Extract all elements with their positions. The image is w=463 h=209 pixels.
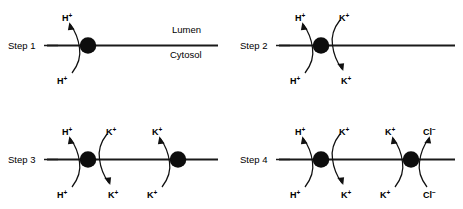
step3-pump-potassium-top-label: K+ [106, 126, 117, 137]
transport-diagram-figure: Step 1 Lumen Cytosol H+ H+ Step 2 [0, 0, 463, 209]
step3-proton-pump [80, 151, 97, 168]
step2-hydrogen-top-label: H+ [295, 12, 306, 23]
step1-hydrogen-flux-arrow [68, 22, 80, 73]
step4-channel-potassium-top-label: K+ [385, 126, 396, 137]
step2-potassium-bottom-label: K+ [341, 75, 352, 86]
lumen-label: Lumen [172, 24, 201, 35]
step2-proton-pump [313, 37, 330, 54]
step4-channel-potassium-bottom-label: K+ [380, 189, 391, 200]
step1-hydrogen-bottom-label: H+ [57, 75, 68, 86]
panel-step3: Step 3 H+ H+ K+ K+ [8, 126, 218, 200]
step4-channel-potassium-flux-arrow [391, 136, 403, 187]
step3-channel-potassium-bottom-label: K+ [147, 189, 158, 200]
step4-pump-potassium-bottom-label: K+ [341, 189, 352, 200]
step4-hydrogen-flux-arrow [301, 136, 313, 187]
step3-channel-potassium-flux-arrow [158, 136, 170, 187]
step4-hydrogen-bottom-label: H+ [290, 189, 301, 200]
step4-proton-pump [313, 151, 330, 168]
step3-potassium-channel [170, 151, 187, 168]
step3-hydrogen-bottom-label: H+ [57, 189, 68, 200]
panel-step4: Step 4 H+ H+ K+ K+ [240, 126, 455, 200]
step1-hydrogen-top-label: H+ [62, 12, 73, 23]
step3-channel-potassium-top-label: K+ [152, 126, 163, 137]
step3-pump-potassium-bottom-label: K+ [108, 189, 119, 200]
step3-hydrogen-flux-arrow [68, 136, 80, 187]
step4-channel-chloride-flux-arrow [419, 136, 431, 187]
panel-step2: Step 2 H+ H+ K+ K+ [240, 12, 455, 86]
step3-label: Step 3 [8, 154, 35, 165]
step4-pump-potassium-top-label: K+ [339, 126, 350, 137]
step1-proton-pump [80, 37, 97, 54]
step2-hydrogen-flux-arrow [301, 22, 313, 73]
step2-label: Step 2 [240, 40, 267, 51]
step4-channel-chloride-bottom-label: Cl− [423, 189, 436, 200]
cytosol-label: Cytosol [170, 49, 202, 60]
step2-potassium-top-label: K+ [339, 12, 350, 23]
step4-potassium-chloride-channel [403, 151, 420, 168]
step4-channel-chloride-top-label: Cl− [423, 126, 436, 137]
step2-hydrogen-bottom-label: H+ [290, 75, 301, 86]
panel-step1: Step 1 Lumen Cytosol H+ H+ [8, 12, 218, 86]
step1-label: Step 1 [8, 40, 35, 51]
step4-hydrogen-top-label: H+ [295, 126, 306, 137]
step4-label: Step 4 [240, 154, 267, 165]
step3-hydrogen-top-label: H+ [62, 126, 73, 137]
diagram-canvas: Step 1 Lumen Cytosol H+ H+ Step 2 [0, 0, 463, 209]
